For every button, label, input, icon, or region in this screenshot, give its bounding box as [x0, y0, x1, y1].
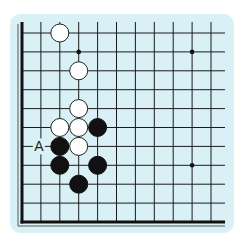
black-stone-icon [70, 175, 88, 193]
black-stone-icon [89, 119, 107, 137]
go-board: A [0, 0, 243, 245]
white-stone-icon [70, 119, 88, 137]
black-stone-icon [51, 156, 69, 174]
star-point-icon [76, 50, 81, 55]
white-stone-icon [70, 62, 88, 80]
star-point-icon [190, 163, 195, 168]
point-label: A [34, 138, 44, 154]
white-stone-icon [51, 24, 69, 42]
black-stone-icon [89, 156, 107, 174]
star-point-icon [190, 50, 195, 55]
black-stone-icon [51, 137, 69, 155]
white-stone-icon [70, 100, 88, 118]
white-stone-icon [51, 119, 69, 137]
white-stone-icon [70, 137, 88, 155]
